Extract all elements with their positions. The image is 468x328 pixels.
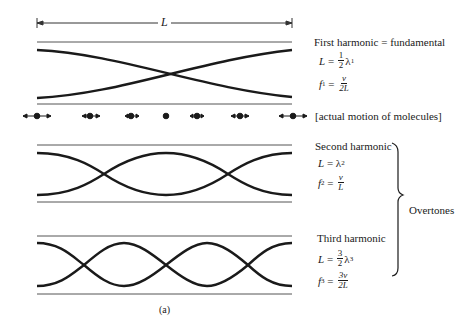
molecule-dot xyxy=(231,113,249,119)
fraction: 3v2L xyxy=(337,271,349,290)
second-harmonic-wave xyxy=(37,145,292,202)
second-harmonic-title: Second harmonic xyxy=(315,141,392,152)
third-harmonic-length-equation: L = 32 λ3 xyxy=(318,249,353,268)
first-harmonic-title: First harmonic = fundamental xyxy=(314,37,445,48)
third-harmonic-wave xyxy=(37,236,292,294)
third-harmonic-frequency-equation: f3 = 3v2L xyxy=(318,271,350,290)
molecule-dot xyxy=(163,113,169,119)
first-harmonic-length-equation: L = 12 λ1 xyxy=(319,51,354,70)
fraction: 32 xyxy=(337,249,344,268)
figure-label: (a) xyxy=(159,304,170,315)
molecule-dot xyxy=(279,113,307,119)
second-harmonic-frequency-equation: f2 = vL xyxy=(318,173,345,192)
fraction: v2L xyxy=(338,74,350,93)
first-harmonic-frequency-equation: f1 = v2L xyxy=(319,74,351,93)
third-harmonic-title: Third harmonic xyxy=(317,233,386,244)
molecule-dot xyxy=(23,113,51,119)
fraction: vL xyxy=(337,173,344,192)
eq-lhs: L xyxy=(319,55,325,67)
overtones-brace xyxy=(392,143,403,276)
length-label: L xyxy=(158,15,171,30)
molecule-dot xyxy=(125,113,139,119)
molecule-motion-caption: [actual motion of molecules] xyxy=(315,111,442,122)
molecule-dot xyxy=(190,113,204,119)
second-harmonic-length-equation: L = λ2 xyxy=(318,157,345,169)
molecule-motion-row xyxy=(23,113,307,119)
overtones-label: Overtones xyxy=(409,205,454,216)
molecule-dot xyxy=(82,113,100,119)
fraction: 12 xyxy=(338,51,345,70)
first-harmonic-wave xyxy=(37,42,292,104)
standing-wave-diagram xyxy=(0,0,468,328)
